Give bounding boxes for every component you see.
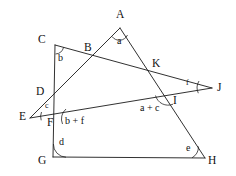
angle-label-f: f: [186, 79, 189, 87]
angle-label-d: d: [59, 137, 64, 147]
segment-E-J: [30, 88, 212, 118]
segment-A-H: [120, 28, 205, 158]
angle-label-a: a: [117, 36, 121, 46]
vertex-label-E: E: [19, 111, 26, 123]
vertex-label-D: D: [36, 86, 44, 98]
vertex-label-F: F: [47, 117, 53, 129]
vertex-label-I: I: [173, 95, 177, 107]
angle-label-b-plus-f: b + f: [65, 116, 84, 126]
angle-label-b: b: [58, 53, 63, 63]
segment-G-H: [53, 157, 205, 158]
segment-group: [30, 28, 212, 158]
vertex-label-C: C: [38, 34, 46, 46]
vertex-label-K: K: [152, 58, 160, 70]
vertex-label-J: J: [217, 82, 221, 94]
angle-label-c: c: [45, 102, 49, 110]
vertex-label-A: A: [116, 9, 124, 21]
geometry-figure: A C B K J D I E F G H a b f c a + c b + …: [0, 0, 236, 176]
segment-C-G: [53, 45, 55, 157]
vertex-label-G: G: [38, 155, 46, 167]
angle-label-a-plus-c: a + c: [140, 103, 160, 113]
angle-arc-H: [192, 147, 199, 158]
angle-label-e: e: [186, 143, 190, 153]
vertex-label-H: H: [208, 155, 216, 167]
angle-arc-J: [197, 81, 199, 93]
vertex-label-B: B: [84, 42, 92, 54]
